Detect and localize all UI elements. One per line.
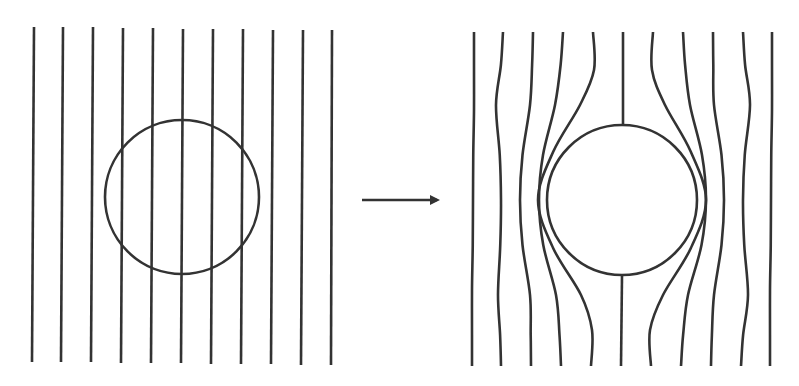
- field-line: [241, 29, 243, 364]
- sphere-outline-expelled: [547, 125, 697, 275]
- curved-field-line: [770, 32, 772, 366]
- field-line: [32, 27, 34, 362]
- left-panel-uniform-field: [32, 27, 332, 365]
- field-line: [331, 30, 332, 365]
- curved-field-line: [496, 32, 503, 366]
- field-line: [61, 27, 63, 362]
- diagram-canvas: Field lines expelled from a sphere: [0, 0, 799, 386]
- field-line: [181, 29, 183, 363]
- field-lines-diagram: [0, 0, 799, 386]
- curved-field-line: [711, 32, 724, 366]
- field-line: [151, 28, 153, 363]
- curved-field-line: [741, 32, 750, 366]
- field-line-center-lower: [621, 276, 622, 366]
- field-line: [271, 30, 273, 364]
- field-line: [91, 27, 93, 362]
- right-panel-expelled-field: [472, 32, 772, 366]
- field-line: [301, 30, 303, 365]
- curved-field-line: [472, 32, 474, 366]
- field-line: [121, 28, 123, 363]
- curved-field-line: [520, 32, 533, 366]
- field-line: [211, 29, 213, 364]
